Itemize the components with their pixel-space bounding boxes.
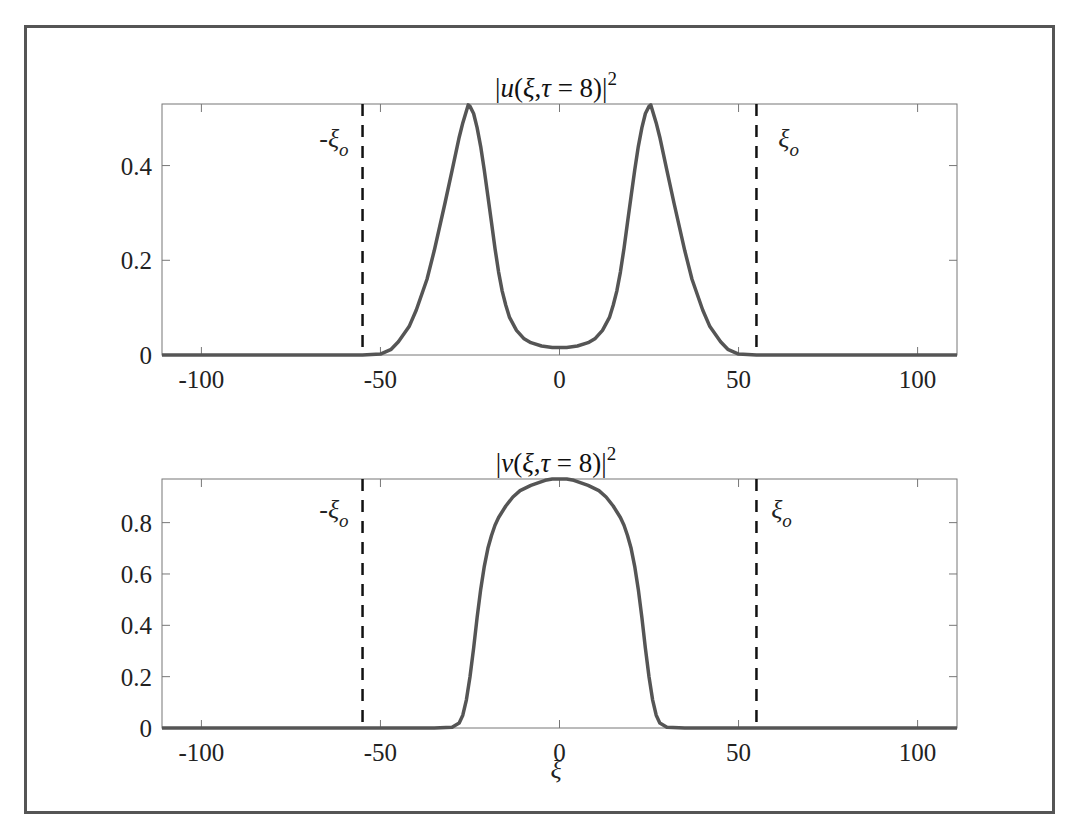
chart-panel-u: |u(ξ,τ = 8)|2 -100-50050100 00.20.4 -ξoξ…: [121, 68, 957, 393]
chart-canvas: |u(ξ,τ = 8)|2 -100-50050100 00.20.4 -ξoξ…: [0, 0, 1078, 830]
x-tick-label: -50: [364, 739, 397, 766]
y-tick-label: 0.8: [121, 510, 152, 537]
y-tick-label: 0.6: [121, 561, 152, 588]
y-tick-label: 0.2: [121, 247, 152, 274]
y-tick-label: 0: [140, 342, 153, 369]
y-tick-label: 0.4: [121, 612, 153, 639]
y-tick-label: 0.2: [121, 664, 152, 691]
x-tick-label: -50: [364, 366, 397, 393]
x-tick-label: -100: [178, 366, 224, 393]
plot-area-u: [162, 104, 957, 355]
x-tick-label: 50: [726, 739, 751, 766]
plot-area-v: [162, 479, 957, 728]
chart-title-u: |u(ξ,τ = 8)|2: [495, 68, 617, 103]
x-tick-label: 50: [726, 366, 751, 393]
x-tick-label: 100: [899, 366, 937, 393]
x-tick-label: 100: [899, 739, 937, 766]
chart-panel-v: |v(ξ,τ = 8)|2 -100-50050100 00.20.40.60.…: [121, 443, 957, 784]
chart-title-v: |v(ξ,τ = 8)|2: [496, 443, 617, 478]
y-tick-label: 0: [140, 715, 153, 742]
x-tick-label: -100: [178, 739, 224, 766]
x-tick-label: 0: [553, 366, 566, 393]
y-tick-label: 0.4: [121, 153, 153, 180]
x-axis-label: ξ: [550, 755, 562, 784]
